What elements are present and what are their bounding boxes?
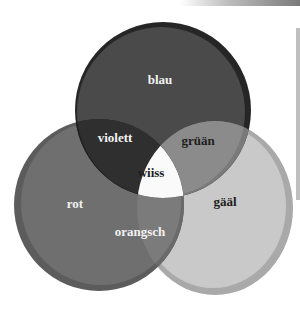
venn-diagram: blau violett grüän wiiss rot orangsch gä… [0, 0, 300, 311]
label-violett: violett [98, 130, 133, 145]
venn-diagram-stage: blau violett grüän wiiss rot orangsch gä… [0, 0, 300, 311]
label-rot: rot [67, 196, 84, 211]
label-orangsch: orangsch [115, 224, 166, 239]
label-gruan: grüän [181, 133, 215, 148]
label-blau: blau [148, 72, 173, 87]
label-gaal: gääl [213, 194, 237, 209]
label-wiiss: wiiss [138, 165, 165, 180]
